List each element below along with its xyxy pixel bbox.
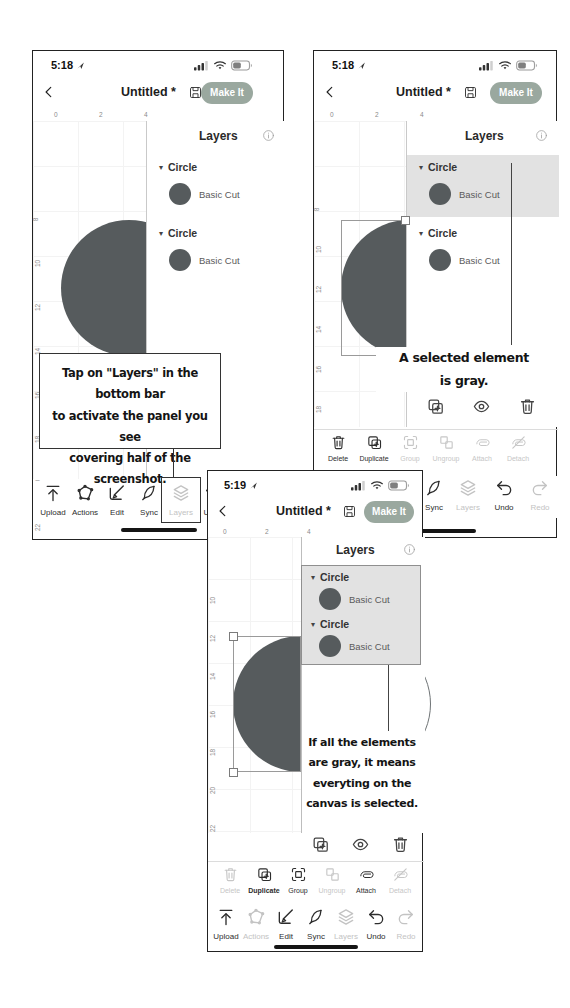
layers-icon xyxy=(458,478,478,498)
location-arrow-icon xyxy=(76,61,85,70)
save-icon[interactable] xyxy=(342,504,357,519)
toolbar-item-layers[interactable]: Layers xyxy=(448,478,488,512)
layers-panel-title: Layers xyxy=(199,129,238,143)
toolbar-label: Undo xyxy=(484,503,524,512)
status-bar: 5:18 xyxy=(332,59,366,71)
ruler-label: 22 xyxy=(209,825,216,832)
design-canvas[interactable]: 10 12 14 16 18 20 22 Layers ▾ Circle Bas… xyxy=(208,537,424,833)
back-icon[interactable] xyxy=(323,85,337,99)
undo-icon xyxy=(366,907,386,927)
location-arrow-icon xyxy=(357,61,366,70)
chevron-down-icon[interactable]: ▾ xyxy=(159,163,163,172)
chevron-down-icon[interactable]: ▾ xyxy=(419,229,423,238)
context-item-group[interactable]: Group xyxy=(392,434,428,462)
context-label: Attach xyxy=(348,887,384,894)
chevron-down-icon[interactable]: ▾ xyxy=(419,163,423,172)
context-item-delete[interactable]: Delete xyxy=(212,866,248,894)
context-item-group[interactable]: Group xyxy=(280,866,316,894)
layer-group-label: Circle xyxy=(320,618,349,630)
chevron-down-icon[interactable]: ▾ xyxy=(311,573,315,582)
ruler-label: 2 xyxy=(265,528,269,535)
chevron-down-icon[interactable]: ▾ xyxy=(311,620,315,629)
make-it-button[interactable]: Make It xyxy=(201,82,253,104)
layer-actions-row xyxy=(406,395,558,425)
layer-group-row[interactable]: ▾ Circle xyxy=(311,571,349,583)
toolbar-item-redo[interactable]: Redo xyxy=(520,478,560,512)
selection-handle[interactable] xyxy=(401,216,410,225)
undo-icon xyxy=(494,478,514,498)
layer-group-row[interactable]: ▾ Circle xyxy=(419,227,457,239)
info-icon[interactable] xyxy=(403,543,416,556)
layer-item-row[interactable]: Basic Cut xyxy=(169,249,240,271)
layer-group-label: Circle xyxy=(320,571,349,583)
context-item-ungroup[interactable]: Ungroup xyxy=(428,434,464,462)
toolbar-label: Redo xyxy=(520,503,560,512)
info-icon[interactable] xyxy=(262,129,275,142)
edit-icon xyxy=(276,907,296,927)
selection-box[interactable] xyxy=(233,636,301,772)
status-icons xyxy=(194,60,253,71)
back-icon[interactable] xyxy=(216,504,230,518)
context-item-duplicate[interactable]: Duplicate xyxy=(356,434,392,462)
visibility-eye-icon[interactable] xyxy=(472,397,491,416)
wifi-icon xyxy=(213,60,227,71)
ruler-label: 16 xyxy=(315,366,322,373)
layer-group-row[interactable]: ▾ Circle xyxy=(311,618,349,630)
visibility-eye-icon[interactable] xyxy=(351,835,370,854)
layer-group-row[interactable]: ▾ Circle xyxy=(159,227,197,239)
make-it-button[interactable]: Make It xyxy=(490,82,542,104)
annotation-line: is gray. xyxy=(376,370,552,393)
layer-group-row[interactable]: ▾ Circle xyxy=(159,161,197,173)
ruler-label: 4 xyxy=(144,111,148,118)
trash-icon[interactable] xyxy=(391,835,410,854)
context-item-ungroup[interactable]: Ungroup xyxy=(314,866,350,894)
ruler-label: 4 xyxy=(420,111,424,118)
phone-screenshot-c: 5:19 Untitled * Make It 0 2 4 10 12 14 1… xyxy=(207,470,423,952)
selection-box[interactable] xyxy=(341,220,406,356)
back-icon[interactable] xyxy=(42,85,56,99)
ruler-label: 10 xyxy=(209,597,216,604)
layer-item-row[interactable]: Basic Cut xyxy=(169,183,240,205)
duplicate-icon[interactable] xyxy=(426,397,445,416)
layer-item-row[interactable]: Basic Cut xyxy=(319,588,390,610)
ruler-label: 18 xyxy=(209,749,216,756)
ruler-label: 16 xyxy=(209,711,216,718)
layer-item-label: Basic Cut xyxy=(199,189,240,200)
layer-group-row[interactable]: ▾ Circle xyxy=(419,161,457,173)
layers-icon xyxy=(336,907,356,927)
layer-thumbnail-circle xyxy=(319,635,341,657)
sync-icon xyxy=(424,478,444,498)
home-indicator[interactable] xyxy=(274,945,358,949)
layer-item-row[interactable]: Basic Cut xyxy=(319,635,390,657)
annotation-line: If all the elements xyxy=(304,733,420,753)
actions-icon xyxy=(246,907,266,927)
selection-handle[interactable] xyxy=(229,768,238,777)
toolbar-item-undo[interactable]: Undo xyxy=(484,478,524,512)
battery-icon xyxy=(231,60,253,71)
selection-handle[interactable] xyxy=(229,632,238,641)
status-icons xyxy=(479,60,538,71)
context-item-attach[interactable]: Attach xyxy=(348,866,384,894)
phone-screenshot-a: 5:18 Untitled * Make It 0 2 4 8 10 12 14… xyxy=(32,50,284,540)
context-item-delete[interactable]: Delete xyxy=(320,434,356,462)
context-item-attach[interactable]: Attach xyxy=(464,434,500,462)
info-icon[interactable] xyxy=(535,129,548,142)
layer-item-row[interactable]: Basic Cut xyxy=(429,249,500,271)
trash-icon[interactable] xyxy=(518,397,537,416)
signal-icon xyxy=(351,480,366,491)
toolbar-item-redo[interactable]: Redo xyxy=(386,907,426,941)
home-indicator[interactable] xyxy=(121,528,197,532)
duplicate-icon[interactable] xyxy=(311,835,330,854)
chevron-down-icon[interactable]: ▾ xyxy=(159,229,163,238)
context-item-duplicate[interactable]: Duplicate xyxy=(246,866,282,894)
context-item-detach[interactable]: Detach xyxy=(500,434,536,462)
make-it-button[interactable]: Make It xyxy=(364,501,414,523)
save-icon[interactable] xyxy=(463,85,478,100)
ungroup-icon xyxy=(438,434,455,451)
duplicate-icon xyxy=(366,434,383,451)
toolbar-label: Redo xyxy=(386,932,426,941)
status-time: 5:19 xyxy=(224,479,246,491)
context-item-detach[interactable]: Detach xyxy=(382,866,418,894)
layer-item-row[interactable]: Basic Cut xyxy=(429,183,500,205)
wifi-icon xyxy=(498,60,512,71)
